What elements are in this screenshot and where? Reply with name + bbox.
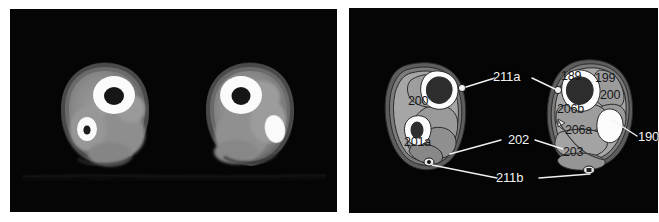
label-206a: 206a	[565, 124, 592, 137]
label-201a: 201a	[404, 136, 431, 149]
ct-scan-image	[10, 9, 337, 212]
label-211b: 211b	[496, 171, 523, 184]
label-202: 202	[508, 133, 529, 146]
vessel-marker-211a-left	[458, 84, 465, 91]
label-211a: 211a	[493, 70, 520, 83]
bone-fibula-190	[597, 109, 623, 143]
label-206b: 206b	[557, 103, 584, 116]
label-189: 189	[561, 70, 581, 83]
vessel-marker-211a-right	[554, 86, 561, 93]
label-199: 199	[595, 72, 615, 85]
ct-scan-panel	[10, 9, 337, 212]
ct-leg-left	[61, 62, 149, 166]
label-200-left: 200	[408, 95, 428, 108]
ct-leg-right	[206, 62, 294, 166]
label-200-right: 200	[600, 89, 620, 102]
label-190: 190	[638, 130, 659, 143]
label-203: 203	[563, 146, 583, 159]
